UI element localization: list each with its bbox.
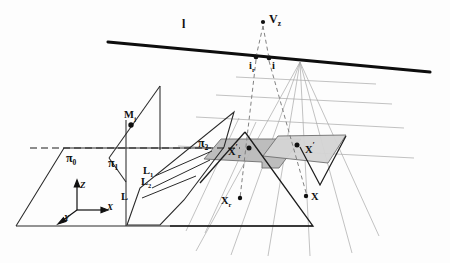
label-line-L2: L2	[141, 177, 151, 190]
label-plane-pi1-sub: 1	[115, 163, 119, 172]
axis-z-arrow	[74, 180, 79, 187]
transversal-3	[196, 117, 404, 128]
label-image-point-r: ir	[249, 61, 255, 74]
point-X-prime-r-dot	[247, 146, 252, 151]
label-image-point-r-sub: r	[252, 66, 255, 73]
ray-ir-to-Xr	[240, 60, 256, 198]
diagram-canvas	[0, 0, 450, 263]
label-plane-pi2-sub: 2	[205, 143, 209, 152]
label-axis-z: Z	[80, 181, 86, 190]
label-image-scene-point-X-prime-r: X′r	[228, 144, 241, 159]
label-scene-point-X-r-sub: r	[229, 201, 232, 208]
label-line-L1-main: L	[143, 165, 150, 176]
label-horizon-line: l	[182, 18, 185, 30]
label-plane-pi1: π1	[108, 157, 118, 172]
label-vanishing-point-z-main: V	[269, 12, 278, 26]
ray-Vz-to-ir	[256, 26, 263, 57]
label-image-scene-point-X-prime-r-main: X	[228, 146, 236, 157]
point-X-dot	[304, 194, 308, 198]
label-axis-x: X	[107, 203, 113, 212]
label-model-point-M-sub: j	[134, 115, 136, 122]
label-plane-pi2: π2	[198, 137, 208, 152]
figure-root: l Vz ir i π0 π1 π2 Mj L L1 L2 Xr X X′r X…	[0, 0, 450, 263]
label-vanishing-point-z-sub: z	[278, 19, 281, 28]
point-i-r-dot	[254, 55, 259, 60]
point-X-prime-dot	[295, 143, 300, 148]
point-Vz-dot	[261, 20, 265, 24]
point-M-dot	[128, 122, 133, 127]
label-line-L2-main: L	[141, 176, 148, 187]
label-image-scene-point-X-prime-main: X	[305, 144, 313, 155]
label-line-L2-sub: 2	[148, 182, 151, 189]
label-image-scene-point-X-prime-prime: ′	[313, 141, 315, 150]
point-i-dot	[267, 56, 272, 61]
label-plane-pi0: π0	[66, 152, 76, 167]
label-vanishing-point-z: Vz	[269, 13, 281, 28]
label-axis-y: Y	[64, 214, 70, 223]
ray-Vz-to-i	[263, 26, 269, 58]
label-plane-pi2-main: π	[198, 136, 205, 150]
transversal-2	[216, 95, 392, 104]
point-X-r-dot	[238, 196, 242, 200]
label-image-scene-point-X-prime: X′	[305, 142, 315, 155]
label-model-point-M-main: M	[124, 109, 134, 120]
label-model-point-M: Mj	[124, 110, 136, 123]
label-line-L: L	[121, 192, 128, 203]
label-image-scene-point-X-prime-r-sub: r	[238, 152, 241, 159]
label-plane-pi1-main: π	[108, 156, 115, 170]
label-scene-point-X-r-main: X	[221, 195, 229, 206]
label-scene-point-X-r: Xr	[221, 196, 231, 209]
label-plane-pi0-sub: 0	[73, 158, 77, 167]
oblique-gray-1	[186, 118, 239, 231]
label-image-point: i	[272, 61, 275, 72]
label-scene-point-X: X	[311, 192, 319, 203]
label-plane-pi0-main: π	[66, 151, 73, 165]
shaded-patches	[204, 135, 346, 168]
